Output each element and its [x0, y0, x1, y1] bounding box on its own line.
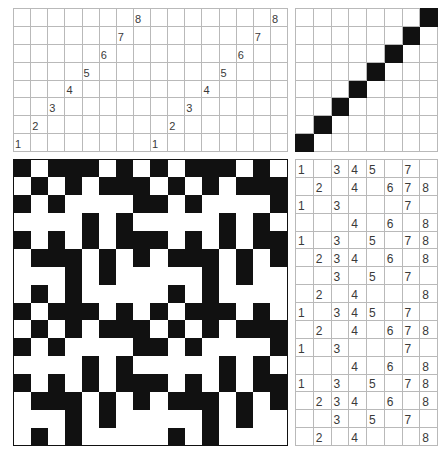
empty-cell [133, 26, 150, 44]
empty-cell [349, 195, 367, 213]
empty-cell [202, 195, 219, 213]
empty-cell [151, 9, 168, 27]
empty-cell [420, 267, 438, 285]
filled-cell [14, 338, 32, 356]
empty-cell [270, 80, 287, 98]
empty-cell [384, 285, 402, 303]
empty-cell [99, 98, 116, 116]
filled-cell [313, 116, 331, 134]
empty-cell [236, 428, 253, 446]
empty-cell [236, 374, 253, 392]
empty-cell [168, 374, 185, 392]
empty-cell [48, 410, 65, 428]
filled-cell [219, 303, 236, 321]
empty-cell [270, 428, 288, 446]
digit-cell: 5 [219, 62, 236, 80]
empty-cell [31, 9, 48, 27]
empty-cell [185, 116, 202, 134]
digit-cell: 4 [349, 392, 367, 410]
empty-cell [116, 80, 133, 98]
empty-cell [14, 177, 32, 195]
empty-cell [313, 356, 331, 374]
filled-cell [99, 392, 116, 410]
filled-cell [296, 134, 314, 152]
empty-cell [219, 177, 236, 195]
empty-cell [65, 26, 82, 44]
empty-cell [384, 195, 402, 213]
grid-row: 13457 [296, 303, 438, 321]
filled-cell [82, 356, 99, 374]
empty-cell [367, 134, 385, 152]
empty-cell [14, 356, 32, 374]
empty-cell [185, 134, 202, 152]
empty-cell [219, 249, 236, 267]
empty-cell [367, 392, 385, 410]
filled-cell [219, 231, 236, 249]
empty-cell [253, 428, 270, 446]
filled-cell [116, 320, 133, 338]
empty-cell [185, 356, 202, 374]
empty-cell [185, 320, 202, 338]
empty-cell [202, 134, 219, 152]
digit-cell: 3 [331, 195, 349, 213]
empty-cell [367, 428, 385, 446]
filled-cell [270, 195, 288, 213]
digit-cell: 8 [420, 285, 438, 303]
empty-cell [420, 410, 438, 428]
empty-cell [236, 303, 253, 321]
empty-cell [270, 134, 287, 152]
filled-cell [253, 177, 270, 195]
empty-cell [384, 160, 402, 178]
empty-cell [82, 195, 99, 213]
grid-row: 468 [296, 213, 438, 231]
empty-cell [219, 267, 236, 285]
filled-cell [270, 320, 288, 338]
empty-cell [367, 44, 385, 62]
empty-cell [99, 231, 116, 249]
digit-cell: 1 [296, 338, 314, 356]
empty-cell [99, 195, 116, 213]
digit-cell: 3 [331, 303, 349, 321]
empty-cell [219, 9, 236, 27]
empty-cell [219, 44, 236, 62]
filled-cell [236, 320, 253, 338]
grid-row: 88 [14, 9, 288, 27]
empty-cell [236, 231, 253, 249]
filled-cell [402, 26, 420, 44]
empty-cell [185, 44, 202, 62]
digit-cell: 4 [349, 160, 367, 178]
empty-cell [202, 356, 219, 374]
empty-cell [384, 267, 402, 285]
empty-cell [236, 9, 253, 27]
empty-cell [133, 116, 150, 134]
digit-cell: 5 [367, 267, 385, 285]
empty-cell [133, 62, 150, 80]
filled-cell [168, 392, 185, 410]
empty-cell [133, 410, 150, 428]
grid-row [14, 374, 288, 392]
filled-cell [82, 213, 99, 231]
grid-row: 137 [296, 195, 438, 213]
filled-cell [150, 160, 167, 178]
empty-cell [168, 134, 185, 152]
empty-cell [82, 177, 99, 195]
empty-cell [384, 62, 402, 80]
empty-cell [402, 249, 420, 267]
digit-cell: 7 [253, 26, 270, 44]
filled-cell [65, 392, 82, 410]
digit-cell: 7 [402, 320, 420, 338]
empty-cell [349, 338, 367, 356]
empty-cell [168, 44, 185, 62]
filled-cell [236, 392, 253, 410]
empty-cell [367, 98, 385, 116]
digit-cell: 3 [331, 160, 349, 178]
empty-cell [99, 356, 116, 374]
empty-cell [384, 303, 402, 321]
empty-cell [82, 9, 99, 27]
empty-cell [253, 285, 270, 303]
empty-cell [116, 62, 133, 80]
digit-cell: 7 [402, 195, 420, 213]
filled-cell [65, 160, 82, 178]
empty-cell [65, 62, 82, 80]
empty-cell [14, 428, 32, 446]
